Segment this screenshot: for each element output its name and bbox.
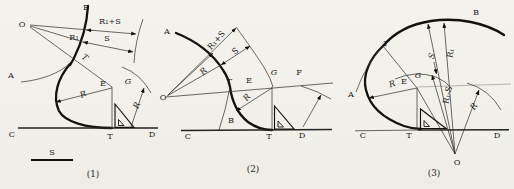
fig2-label-s: S	[230, 45, 241, 57]
fig2-label-c: C	[185, 131, 191, 141]
fig3-label-d: D	[494, 130, 501, 140]
fig1-label-r-swing: R	[130, 100, 142, 111]
fig1-label-a: A	[7, 70, 14, 80]
fig1-label-r-radius: R	[77, 88, 87, 100]
fig1-label-b: B	[83, 2, 89, 12]
fig2-label-e: E	[246, 75, 252, 85]
fig1-s-dimension	[83, 42, 133, 52]
fig2-label-t-base: T	[266, 131, 272, 141]
fig3-label-r-radius: R	[387, 78, 397, 90]
fig3-caption: (3)	[428, 168, 440, 178]
fig2-baseline-CD	[181, 130, 332, 131]
fig3-label-t-curve: T	[383, 38, 389, 48]
fig3-swing-R-arrow	[455, 90, 479, 154]
fig1-label-c: C	[9, 129, 15, 139]
fig1-label-d: D	[149, 129, 156, 139]
fig3-horizontal-line	[417, 84, 511, 87]
fig2-main-ray-OEGF	[166, 83, 333, 97]
fig3-label-t-base: T	[406, 130, 412, 140]
scan-page: O B R₁+S R₁ S T A R E G R C T D S (1) A …	[0, 0, 514, 189]
fig3-label-o: O	[454, 157, 461, 167]
figure-1: O B R₁+S R₁ S T A R E G R C T D S (1)	[7, 2, 158, 179]
fig2-label-b: B	[228, 115, 234, 125]
fig3-right-angle-mark	[424, 121, 430, 127]
fig2-caption: (2)	[247, 164, 259, 174]
geometry-diagram: O B R₁+S R₁ S T A R E G R C T D S (1) A …	[0, 0, 514, 189]
fig2-label-g: G	[271, 67, 278, 77]
fig1-label-t-curve: T	[80, 51, 91, 63]
fig2-label-a: A	[163, 26, 170, 36]
fig3-label-e: E	[401, 76, 407, 86]
fig3-given-arc	[383, 20, 504, 46]
fig3-label-r1-minus-s: R₁-S	[440, 85, 454, 105]
fig3-label-r1: R₁	[444, 47, 455, 58]
fig1-outer-arc	[134, 19, 143, 63]
fig3-label-g: G	[415, 70, 422, 80]
fig2-label-d: D	[299, 130, 306, 140]
fig3-label-r-swing: R	[467, 101, 479, 113]
figure-2: A O R₁+S S R T E G F R B C T D (2)	[160, 26, 333, 174]
fig1-label-r1-plus-s: R₁+S	[99, 16, 121, 26]
fig3-label-b: B	[473, 7, 479, 17]
fig2-lower-R-arrow	[236, 88, 272, 111]
fig2-set-square	[275, 106, 295, 129]
fig2-right-angle-mark	[278, 121, 284, 127]
fig2-outer-arc	[236, 27, 273, 87]
fig1-right-angle-mark	[119, 120, 125, 126]
fig3-radius-R-arrow	[369, 88, 417, 98]
fig1-set-square	[115, 104, 134, 127]
fig1-label-s: S	[104, 33, 110, 43]
fig1-scale-label: S	[49, 147, 55, 157]
fig2-label-o: O	[160, 92, 167, 102]
fig2-label-f: F	[296, 67, 302, 77]
fig3-arc-extension-A	[356, 46, 383, 92]
fig2-f-arc	[301, 86, 331, 99]
figure-3: B T S R₁ R₁-S E G A R R C T D O (3)	[347, 7, 511, 178]
fig1-label-e: E	[100, 78, 106, 88]
fig1-label-o: O	[19, 19, 26, 29]
fig2-given-and-connecting-arc	[176, 33, 272, 130]
fig1-caption: (1)	[87, 169, 99, 179]
fig2-d-swing-arrow	[303, 95, 321, 127]
fig1-label-r1: R₁	[69, 32, 78, 42]
fig1-label-t-base: T	[107, 131, 113, 141]
fig3-label-c: C	[360, 130, 366, 140]
fig1-label-g: G	[125, 76, 132, 86]
fig2-label-t-curve: T	[226, 76, 232, 86]
fig3-label-a: A	[347, 89, 354, 99]
fig3-label-s: S	[426, 52, 437, 60]
